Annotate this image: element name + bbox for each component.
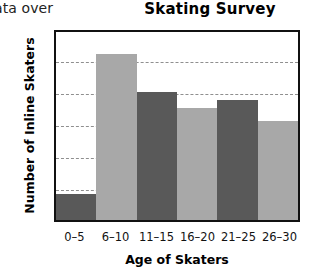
bar — [96, 54, 136, 220]
x-axis-title: Age of Skaters — [54, 252, 300, 267]
x-axis-tick-label: 0–5 — [54, 230, 95, 244]
bar — [258, 121, 298, 220]
plot-area — [54, 30, 300, 222]
bar — [177, 108, 217, 220]
x-axis-tick-label: 6–10 — [95, 230, 136, 244]
x-axis-tick-label: 11–15 — [136, 230, 177, 244]
page-text-fragment: ata over — [0, 0, 53, 16]
y-axis-title: Number of Inline Skaters — [22, 31, 37, 221]
bar-series — [56, 32, 298, 220]
bar — [137, 92, 177, 220]
chart-title: Skating Survey — [110, 0, 310, 18]
bar — [217, 100, 257, 220]
x-axis-tick-labels: 0–56–1011–1516–2021–2526–30 — [54, 230, 300, 244]
plot-inner — [56, 32, 298, 220]
x-axis-tick-label: 16–20 — [177, 230, 218, 244]
bar — [56, 194, 96, 220]
x-axis-tick-label: 26–30 — [259, 230, 300, 244]
x-axis-tick-label: 21–25 — [218, 230, 259, 244]
